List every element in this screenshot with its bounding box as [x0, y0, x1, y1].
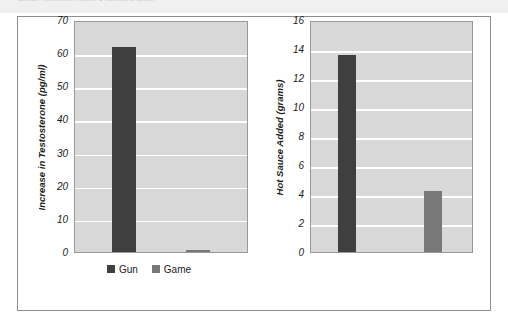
y-axis-tick-hot-sauce-14: 14 [293, 45, 304, 55]
bar-testosterone-game [186, 250, 210, 252]
gridline [311, 196, 472, 198]
caption-text: Source: Klinesmith, Kasser, & McAndrew (… [18, 0, 155, 2]
gridline [75, 121, 247, 123]
y-axis-tick-hot-sauce-12: 12 [293, 74, 304, 84]
plot-area-testosterone [74, 21, 248, 253]
legend-label-game: Game [164, 264, 191, 275]
y-axis-tick-hot-sauce-0: 0 [298, 248, 304, 258]
gridline [75, 155, 247, 157]
y-axis-tick-testosterone-60: 60 [57, 49, 68, 59]
y-axis-label-text: Increase in Testosterone (pg/ml) [37, 64, 48, 210]
chart-testosterone: Increase in Testosterone (pg/ml) 7060504… [34, 21, 264, 279]
gridline [311, 51, 472, 53]
legend-label-gun: Gun [119, 264, 138, 275]
y-axis-tick-hot-sauce-16: 16 [293, 16, 304, 26]
bar-hot-sauce-game [424, 191, 442, 252]
y-axis-label-text: Hot Sauce Added (grams) [275, 79, 286, 195]
legend-item-game[interactable]: Game [152, 264, 191, 275]
bar-testosterone-gun [112, 47, 136, 252]
y-axis-tick-testosterone-40: 40 [57, 115, 68, 125]
y-axis-tick-testosterone-10: 10 [57, 215, 68, 225]
y-axis-ticks-hot-sauce: 1614121086420 [285, 21, 307, 253]
y-axis-label-testosterone: Increase in Testosterone (pg/ml) [34, 21, 50, 253]
y-axis-tick-testosterone-70: 70 [57, 16, 68, 26]
gridline [75, 221, 247, 223]
figure-frame: Increase in Testosterone (pg/ml) 7060504… [17, 16, 491, 311]
gridline [311, 225, 472, 227]
y-axis-ticks-testosterone: 706050403020100 [49, 21, 71, 253]
y-axis-tick-testosterone-50: 50 [57, 82, 68, 92]
y-axis-tick-testosterone-20: 20 [57, 182, 68, 192]
gridline [311, 138, 472, 140]
legend-swatch-game [152, 265, 160, 273]
gridline [311, 167, 472, 169]
y-axis-tick-hot-sauce-10: 10 [293, 103, 304, 113]
y-axis-tick-testosterone-30: 30 [57, 149, 68, 159]
chart-legend: GunGame [34, 261, 264, 277]
bar-hot-sauce-gun [338, 55, 356, 252]
plot-area-hot-sauce [310, 21, 473, 253]
legend-item-gun[interactable]: Gun [107, 264, 138, 275]
gridline [311, 109, 472, 111]
gridline [311, 80, 472, 82]
gridline [75, 88, 247, 90]
y-axis-tick-hot-sauce-8: 8 [298, 132, 304, 142]
y-axis-tick-hot-sauce-6: 6 [298, 161, 304, 171]
chart-hot-sauce: Hot Sauce Added (grams) 1614121086420 [272, 21, 476, 279]
figure-page: Source: Klinesmith, Kasser, & McAndrew (… [0, 0, 508, 325]
y-axis-tick-testosterone-0: 0 [62, 248, 68, 258]
gridline [75, 55, 247, 57]
legend-swatch-gun [107, 265, 115, 273]
gridline [75, 188, 247, 190]
caption-strip: Source: Klinesmith, Kasser, & McAndrew (… [0, 0, 508, 13]
y-axis-tick-hot-sauce-2: 2 [298, 219, 304, 229]
y-axis-tick-hot-sauce-4: 4 [298, 190, 304, 200]
